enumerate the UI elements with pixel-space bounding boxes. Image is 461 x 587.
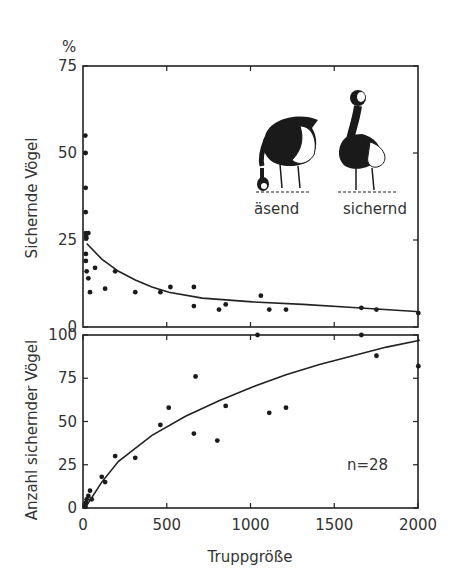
bottom-axis-ticks: 02550751000500100015002000 <box>48 326 437 534</box>
x-tick-label: 500 <box>152 516 181 534</box>
data-point <box>133 290 138 295</box>
data-point <box>166 405 171 410</box>
data-point <box>88 290 93 295</box>
data-point <box>223 302 228 307</box>
bottom-y-tick-label: 0 <box>67 499 77 517</box>
data-point <box>191 304 196 309</box>
data-point <box>191 285 196 290</box>
bottom-y-tick-label: 75 <box>58 369 77 387</box>
data-point <box>83 210 88 215</box>
top-y-tick-label: 25 <box>58 231 77 249</box>
bottom-y-tick-label: 50 <box>58 413 77 431</box>
bottom-fit-curve <box>85 340 420 508</box>
top-y-axis-label: Sichernde Vögel <box>23 138 41 259</box>
data-point <box>168 285 173 290</box>
data-point <box>255 333 260 338</box>
top-unit-label: % <box>62 38 76 56</box>
data-point <box>215 438 220 443</box>
data-point <box>93 265 98 270</box>
data-point <box>267 307 272 312</box>
data-point <box>84 269 89 274</box>
data-point <box>83 151 88 156</box>
bottom-y-axis-label: Anzahl sichernder Vögel <box>23 340 41 521</box>
data-point <box>86 493 91 498</box>
data-point <box>113 454 118 459</box>
data-point <box>284 405 289 410</box>
svg-text:äsend: äsend <box>254 200 299 218</box>
data-point <box>103 286 108 291</box>
svg-text:sichernd: sichernd <box>343 200 407 218</box>
data-point <box>99 474 104 479</box>
data-point <box>86 276 91 281</box>
data-point <box>359 333 364 338</box>
data-point <box>223 404 228 409</box>
data-point <box>83 258 88 263</box>
top-plot-frame <box>83 66 418 327</box>
bottom-panel: 02550751000500100015002000 n=28 Anzahl s… <box>23 326 437 566</box>
data-point <box>416 364 421 369</box>
data-point <box>191 431 196 436</box>
x-axis-label: Truppgröße <box>207 548 293 566</box>
goose-illustration-grazing: äsend <box>254 117 318 218</box>
data-point <box>83 133 88 138</box>
top-y-tick-label: 50 <box>58 144 77 162</box>
chart-figure: 0255075 % Sichernde Vögel äsend sichernd <box>0 0 461 587</box>
data-point <box>86 231 91 236</box>
sample-size-annotation: n=28 <box>347 456 388 474</box>
x-tick-label: 2000 <box>399 516 437 534</box>
data-point <box>258 293 263 298</box>
data-point <box>284 307 289 312</box>
data-point <box>158 423 163 428</box>
bottom-y-tick-label: 100 <box>48 326 77 344</box>
data-point <box>84 236 89 241</box>
x-tick-label: 1500 <box>315 516 353 534</box>
data-point <box>83 252 88 257</box>
top-fit-curve <box>87 244 420 312</box>
data-point <box>133 455 138 460</box>
data-point <box>193 374 198 379</box>
data-point <box>88 488 93 493</box>
data-point <box>267 410 272 415</box>
x-tick-label: 0 <box>78 516 88 534</box>
bottom-plot-frame <box>83 335 418 508</box>
goose-illustration-vigilant: sichernd <box>338 90 407 218</box>
data-point <box>217 307 222 312</box>
bottom-data-points <box>83 333 421 509</box>
x-tick-label: 1000 <box>231 516 269 534</box>
top-y-tick-label: 75 <box>58 57 77 75</box>
data-point <box>374 353 379 358</box>
data-point <box>83 185 88 190</box>
bottom-y-tick-label: 25 <box>58 456 77 474</box>
top-panel: 0255075 % Sichernde Vögel äsend sichernd <box>23 38 421 336</box>
